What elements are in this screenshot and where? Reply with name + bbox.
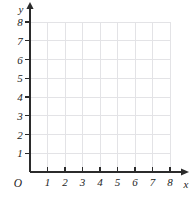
y-tick-label-6: 6 <box>17 54 23 66</box>
x-axis-label: x <box>183 178 189 190</box>
y-axis-tick-marks <box>25 22 30 153</box>
x-tick-label-6: 6 <box>132 176 138 188</box>
y-axis-label: y <box>18 3 24 15</box>
y-axis-arrow-icon <box>26 2 33 9</box>
y-tick-label-4: 4 <box>17 91 23 103</box>
x-axis-tick-marks <box>48 167 171 172</box>
x-tick-label-8: 8 <box>167 176 173 188</box>
x-axis-arrow-icon <box>181 168 189 175</box>
x-tick-label-7: 7 <box>150 176 156 188</box>
y-tick-label-1: 1 <box>17 147 23 159</box>
x-axis-tick-labels: 1 2 3 4 5 6 7 8 <box>45 176 174 188</box>
coordinate-plane-svg: 1 2 3 4 5 6 7 8 1 2 3 4 5 6 7 8 x y O <box>0 0 196 199</box>
y-tick-label-5: 5 <box>17 72 23 84</box>
y-tick-label-7: 7 <box>17 35 23 47</box>
x-tick-label-4: 4 <box>97 176 103 188</box>
y-tick-label-2: 2 <box>17 129 23 141</box>
y-tick-label-3: 3 <box>16 110 23 122</box>
x-tick-label-5: 5 <box>115 176 121 188</box>
coordinate-grid-figure: 1 2 3 4 5 6 7 8 1 2 3 4 5 6 7 8 x y O <box>0 0 196 199</box>
x-tick-label-1: 1 <box>45 176 51 188</box>
y-axis-tick-labels: 1 2 3 4 5 6 7 8 <box>16 16 23 159</box>
x-tick-label-2: 2 <box>62 176 68 188</box>
origin-label: O <box>14 177 23 189</box>
y-tick-label-8: 8 <box>17 16 23 28</box>
x-tick-label-3: 3 <box>79 176 86 188</box>
